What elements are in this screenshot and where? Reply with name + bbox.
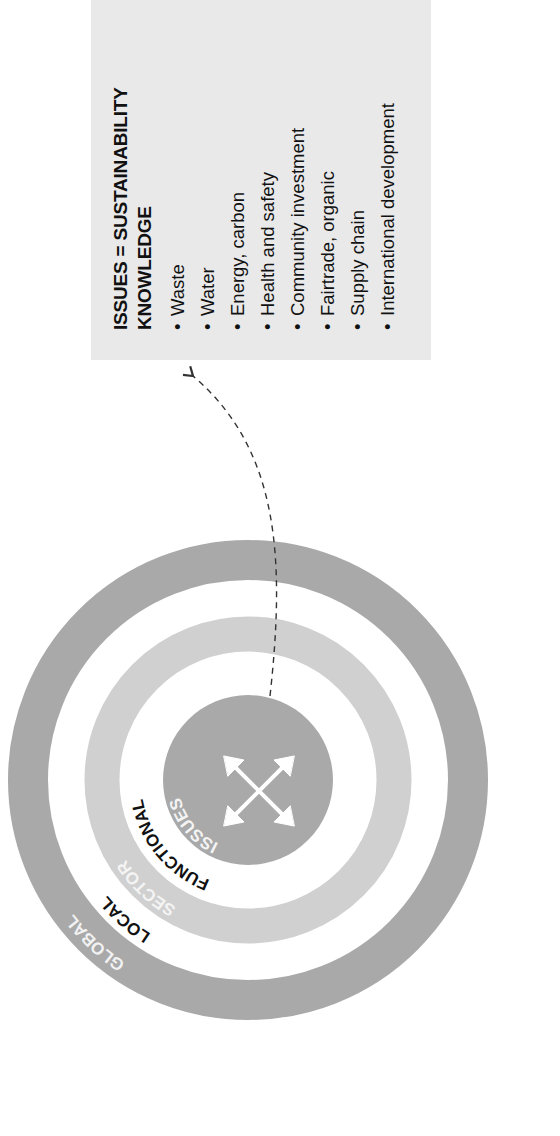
- concentric-circles-diagram: GLOBAL LOCAL SECTOR FUNCTIONAL ISSUES: [0, 0, 560, 1136]
